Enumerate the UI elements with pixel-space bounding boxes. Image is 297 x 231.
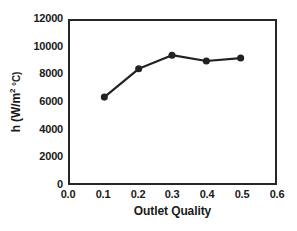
x-axis-title: Outlet Quality	[68, 204, 277, 218]
data-series-line	[70, 21, 275, 183]
y-tick-label-8000: 8000	[39, 68, 63, 79]
data-point-marker	[168, 52, 175, 59]
y-axis-title-suffix: °C)	[11, 72, 22, 89]
x-tick-label-0.4: 0.4	[192, 189, 222, 200]
y-tick-label-12000: 12000	[33, 13, 63, 24]
data-point-marker	[237, 55, 244, 62]
y-tick-label-2000: 2000	[39, 151, 63, 162]
series-polyline	[104, 55, 240, 97]
x-tick-label-0.1: 0.1	[88, 189, 118, 200]
y-tick-label-10000: 10000	[33, 41, 63, 52]
x-tick-label-0.6: 0.6	[262, 189, 292, 200]
x-tick-label-0.2: 0.2	[123, 189, 153, 200]
y-axis-title-prefix: h (W/m	[9, 93, 23, 132]
x-tick-label-0.3: 0.3	[157, 189, 187, 200]
x-tick-label-0.5: 0.5	[227, 189, 257, 200]
chart-figure: 12000 10000 8000 6000 4000 2000 0 0.0 0.…	[0, 0, 297, 231]
plot-area	[68, 19, 277, 185]
y-tick-label-4000: 4000	[39, 124, 63, 135]
x-tick-label-0.0: 0.0	[53, 189, 83, 200]
data-point-marker	[203, 57, 210, 64]
y-axis-title-superscript: 2	[8, 89, 17, 93]
data-point-marker	[135, 65, 142, 72]
data-point-marker	[101, 94, 108, 101]
y-tick-label-6000: 6000	[39, 96, 63, 107]
y-axis-title: h (W/m2 °C)	[9, 42, 23, 162]
